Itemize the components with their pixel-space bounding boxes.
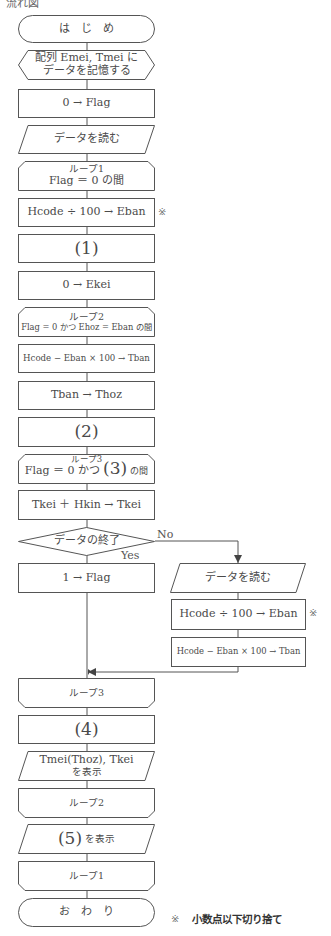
blank-1-label: (1) — [74, 239, 98, 259]
footnote-mark: ※ — [171, 913, 179, 924]
set-flag-label: 1 → Flag — [63, 572, 111, 585]
calc-eban-label-2: Hcode ÷ 100 → Eban — [179, 608, 297, 621]
start-label: は じ め — [59, 23, 114, 36]
loop2-condition: Flag = 0 かつ Ehoz = Eban の間 — [21, 323, 152, 333]
calc-eban-box-2: Hcode ÷ 100 → Eban — [171, 599, 306, 630]
calc-eban-label: Hcode ÷ 100 → Eban — [27, 206, 145, 219]
loop3-start: ループ3 Flag ＝ 0 かつ (3) の間 — [18, 454, 155, 484]
blank-2-label: (2) — [74, 422, 98, 442]
output-tmei-line-2: を表示 — [72, 767, 102, 778]
decision-no-label: No — [157, 528, 173, 541]
loop3-end: ループ3 — [18, 678, 155, 708]
diagram-title: 流れ図 — [6, 0, 39, 10]
set-flag-box: 1 → Flag — [18, 563, 155, 593]
decision-label: データの終了 — [54, 535, 120, 548]
loop2-start: ループ2 Flag = 0 かつ Ehoz = Eban の間 — [18, 307, 155, 337]
truncate-mark-2: ※ — [309, 607, 317, 618]
output-tmei-parallelogram: Tmei(Thoz), Tkei を表示 — [18, 751, 155, 781]
init-flag-label: 0 → Flag — [63, 97, 111, 110]
init-flag-box: 0 → Flag — [18, 89, 155, 118]
read-data-parallelogram: データを読む — [18, 125, 155, 154]
tban-thoz-label: Tban → Thoz — [51, 389, 122, 402]
blank-4-box: (4) — [18, 715, 155, 744]
read-data-label: データを読む — [54, 133, 120, 146]
output-5-suffix: を表示 — [85, 834, 115, 845]
prep-hexagon: 配列 Emei, Tmei に データを記憶する — [18, 50, 155, 80]
calc-tban-box-2: Hcode − Eban × 100 → Tban — [171, 637, 306, 667]
end-label: お わ り — [59, 906, 114, 919]
output-5-parallelogram: (5) を表示 — [18, 824, 155, 854]
loop1-start: ループ1 Flag ＝ 0 の間 — [18, 161, 155, 191]
blank-2-box: (2) — [18, 417, 155, 447]
calc-tban-box: Hcode − Eban × 100 → Tban — [18, 344, 155, 373]
loop2-end: ループ2 — [18, 788, 155, 818]
prep-line-2: データを記憶する — [43, 65, 131, 78]
truncate-mark: ※ — [158, 206, 166, 217]
loop1-end-label: ループ1 — [69, 871, 104, 882]
tban-thoz-box: Tban → Thoz — [18, 381, 155, 410]
decision-yes-label: Yes — [121, 549, 139, 562]
start-terminal: は じ め — [18, 15, 155, 43]
read-data-parallelogram-2: データを読む — [170, 563, 306, 593]
footnote-text: 小数点以下切り捨て — [192, 911, 282, 926]
init-ekei-label: 0 → Ekei — [63, 279, 111, 292]
loop1-condition: Flag ＝ 0 の間 — [49, 175, 124, 188]
calc-tban-label: Hcode − Eban × 100 → Tban — [23, 354, 150, 364]
output-tmei-line-1: Tmei(Thoz), Tkei — [39, 754, 133, 767]
add-tkei-box: Tkei ＋ Hkin → Tkei — [18, 490, 155, 520]
loop3-condition-prefix: Flag ＝ 0 かつ — [25, 465, 100, 478]
blank-5-label: (5) — [58, 829, 82, 849]
loop3-end-label: ループ3 — [69, 688, 104, 699]
loop2-end-label: ループ2 — [69, 798, 104, 809]
loop1-end: ループ1 — [18, 861, 155, 891]
blank-3-label: (3) — [103, 459, 127, 479]
end-terminal: お わ り — [18, 898, 155, 927]
blank-4-label: (4) — [74, 720, 98, 740]
calc-eban-box: Hcode ÷ 100 → Eban — [18, 198, 155, 227]
init-ekei-box: 0 → Ekei — [18, 271, 155, 300]
add-tkei-label: Tkei ＋ Hkin → Tkei — [32, 499, 141, 512]
loop3-condition-suffix: の間 — [130, 466, 148, 476]
read-data-label-2: データを読む — [205, 572, 271, 585]
blank-1-box: (1) — [18, 234, 155, 263]
calc-tban-label-2: Hcode − Eban × 100 → Tban — [177, 647, 301, 657]
